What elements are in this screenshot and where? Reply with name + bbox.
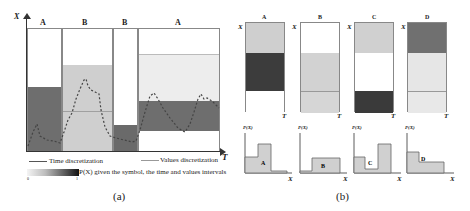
symbol-d-y-label: X: [401, 23, 406, 31]
symbol-c-title: C: [372, 14, 376, 20]
symbol-c-t-label: T: [391, 112, 395, 120]
colorbar-min-label: 0: [27, 176, 29, 181]
panel-a-caption: (a): [113, 190, 125, 202]
symbol-d-title: D: [425, 14, 429, 20]
symbol-a-pdf-label: A: [261, 160, 266, 166]
time-discretization-swatch: [29, 161, 47, 162]
probability-colorbar: [27, 169, 79, 176]
time-discretization-label: Time discretization: [49, 157, 103, 165]
symbol-c-px-label: P(X): [352, 125, 362, 130]
symbol-a-pdf-chart: A: [240, 130, 300, 180]
symbol-c-pdf-chart: C: [349, 130, 409, 180]
colorbar-label: P(X) given the symbol, the time and valu…: [79, 168, 226, 176]
panel-b-caption: (b): [336, 190, 349, 202]
symbol-b-t-label: T: [337, 112, 341, 120]
symbol-b-y-label: X: [292, 23, 297, 31]
symbol-a-title: A: [262, 14, 266, 20]
symbol-d-pdf-chart: D: [402, 130, 462, 180]
symbol-c-density-map: [354, 22, 394, 112]
symbol-a-density-map: [245, 22, 285, 112]
symbol-a-t-label: T: [282, 112, 286, 120]
symbol-c-x-label: X: [397, 175, 402, 183]
symbol-c-pdf-label: C: [368, 160, 372, 166]
values-discretization-swatch: [141, 160, 159, 161]
symbol-a-px-label: P(X): [243, 125, 253, 130]
symbol-a-y-label: X: [238, 23, 243, 31]
symbol-d-t-label: T: [444, 112, 448, 120]
values-discretization-label: Values discretization: [160, 156, 218, 164]
symbol-b-pdf-label: B: [321, 163, 325, 169]
symbol-c-y-label: X: [347, 23, 352, 31]
symbol-d-density-map: [407, 22, 447, 112]
symbol-d-pdf-label: D: [421, 156, 426, 162]
symbol-b-px-label: P(X): [298, 125, 308, 130]
colorbar-max-label: 1: [76, 176, 78, 181]
symbol-a-x-label: X: [288, 175, 293, 183]
symbol-b-x-label: X: [343, 175, 348, 183]
symbol-b-title: B: [318, 14, 322, 20]
time-series-line: [0, 0, 240, 160]
symbol-d-px-label: P(X): [405, 125, 415, 130]
symbol-b-density-map: [300, 22, 340, 112]
symbol-b-pdf-chart: B: [295, 130, 355, 180]
symbol-d-x-label: X: [450, 175, 455, 183]
